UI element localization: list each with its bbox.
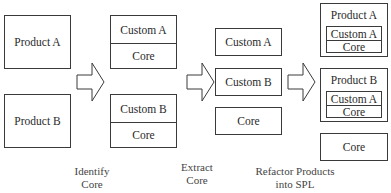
arrow-right-icon <box>76 62 106 102</box>
core-label: Core <box>216 108 281 134</box>
caption-line: Identify <box>62 165 122 178</box>
caption-identify-core: Identify Core <box>62 165 122 191</box>
product-a-box: Product A <box>4 15 71 69</box>
spl-core-box: Core <box>320 133 388 161</box>
identified-product-b-box: Custom B Core <box>110 94 177 148</box>
spl-product-a-inner-box: Custom A Core <box>326 26 382 53</box>
identified-product-a-box: Custom A Core <box>110 15 177 69</box>
caption-line: Core <box>62 178 122 191</box>
core-label: Core <box>327 40 381 52</box>
core-label: Core <box>321 134 387 160</box>
custom-a-label: Custom A <box>327 92 381 105</box>
spl-product-b-box: Product B Custom A Core <box>320 68 388 122</box>
custom-a-label: Custom A <box>111 16 176 43</box>
spl-product-b-inner-box: Custom A Core <box>326 91 382 118</box>
extracted-custom-b-box: Custom B <box>215 68 282 96</box>
custom-a-label: Custom A <box>216 29 281 55</box>
core-label: Core <box>111 43 176 68</box>
extracted-custom-a-box: Custom A <box>215 28 282 56</box>
arrow-right-icon <box>287 62 317 102</box>
product-b-title: Product B <box>321 71 387 89</box>
custom-a-label: Custom A <box>327 27 381 40</box>
caption-line: Core <box>167 174 227 187</box>
core-label: Core <box>327 105 381 117</box>
product-a-title: Product A <box>321 6 387 24</box>
custom-b-label: Custom B <box>216 69 281 95</box>
extracted-core-box: Core <box>215 107 282 135</box>
core-label: Core <box>111 122 176 147</box>
custom-b-label: Custom B <box>111 95 176 122</box>
caption-line: Refactor Products <box>240 165 350 178</box>
caption-line: Extract <box>167 161 227 174</box>
caption-refactor: Refactor Products into SPL <box>240 165 350 191</box>
product-b-label: Product B <box>5 95 70 147</box>
product-b-box: Product B <box>4 94 71 148</box>
spl-product-a-box: Product A Custom A Core <box>320 3 388 57</box>
arrow-right-icon <box>186 62 216 102</box>
product-a-label: Product A <box>5 16 70 68</box>
caption-extract-core: Extract Core <box>167 161 227 187</box>
caption-line: into SPL <box>240 178 350 191</box>
